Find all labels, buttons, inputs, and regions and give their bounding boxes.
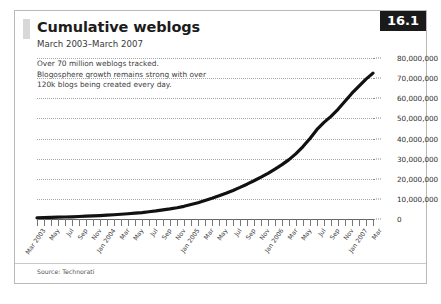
x-tick — [226, 219, 227, 226]
x-tick — [373, 219, 374, 226]
footer-divider — [15, 263, 426, 264]
x-tick — [240, 219, 241, 226]
x-tick — [114, 219, 115, 226]
x-tick — [331, 219, 332, 226]
x-tick — [156, 219, 157, 226]
x-tick — [268, 219, 269, 226]
y-axis-label: 10,000,000 — [397, 194, 438, 203]
x-tick — [219, 219, 220, 226]
y-tick — [373, 158, 381, 159]
y-tick — [373, 198, 381, 199]
y-axis-label: 60,000,000 — [397, 94, 438, 103]
x-tick — [177, 219, 178, 226]
y-tick — [373, 98, 381, 99]
x-tick — [275, 219, 276, 226]
chart-x-axis-labels: Mar 2003MayJulSepNovJan 2004MarMayJulSep… — [37, 227, 377, 273]
chart-series-layer — [37, 58, 373, 219]
x-tick — [247, 219, 248, 226]
x-axis-label: Nov — [174, 227, 187, 241]
x-tick — [184, 219, 185, 226]
y-axis-label: 80,000,000 — [397, 54, 438, 63]
x-axis-label: Mar — [202, 227, 215, 241]
figure-subtitle: March 2003–March 2007 — [37, 39, 143, 49]
y-tick — [373, 58, 381, 59]
figure-number-badge: 16.1 — [380, 11, 426, 31]
chart-plot-area: 010,000,00020,000,00030,000,00040,000,00… — [37, 58, 372, 218]
x-axis-label: Mar 2003 — [24, 227, 47, 256]
x-tick — [261, 219, 262, 226]
x-tick — [359, 219, 360, 226]
x-tick — [345, 219, 346, 226]
x-axis-label: Jul — [65, 227, 75, 237]
x-tick — [142, 219, 143, 226]
x-axis-label: Sep — [244, 227, 257, 241]
x-tick — [128, 219, 129, 226]
series-line-cumulative-weblogs — [37, 73, 373, 218]
y-tick — [373, 78, 381, 79]
x-tick — [310, 219, 311, 226]
x-tick — [352, 219, 353, 226]
x-tick — [191, 219, 192, 226]
x-tick — [212, 219, 213, 226]
y-tick — [373, 118, 381, 119]
y-axis-label: 20,000,000 — [397, 174, 438, 183]
x-axis-label: Jul — [149, 227, 159, 237]
x-axis-label: May — [48, 227, 61, 242]
x-axis-label: Mar — [286, 227, 299, 241]
x-tick — [37, 219, 38, 226]
page-title: Cumulative weblogs — [37, 19, 200, 35]
x-axis-label: Sep — [76, 227, 89, 241]
x-tick — [44, 219, 45, 226]
x-axis-label: Jul — [317, 227, 327, 237]
x-tick — [317, 219, 318, 226]
x-tick — [51, 219, 52, 226]
x-tick — [65, 219, 66, 226]
y-axis-label: 70,000,000 — [397, 74, 438, 83]
x-tick — [72, 219, 73, 226]
x-axis-label: May — [132, 227, 145, 242]
x-tick — [282, 219, 283, 226]
x-tick — [254, 219, 255, 226]
x-axis-label: Nov — [258, 227, 271, 241]
x-tick — [163, 219, 164, 226]
source-note: Source: Technorati — [37, 268, 94, 275]
x-tick — [338, 219, 339, 226]
x-tick — [135, 219, 136, 226]
x-tick — [289, 219, 290, 226]
x-axis-label: Nov — [90, 227, 103, 241]
y-tick — [373, 219, 381, 220]
x-tick — [86, 219, 87, 226]
x-tick — [79, 219, 80, 226]
x-tick — [100, 219, 101, 226]
x-tick — [93, 219, 94, 226]
x-axis-label: Mar — [118, 227, 131, 241]
title-accent-bar — [23, 19, 30, 39]
x-tick — [149, 219, 150, 226]
x-axis-label: Sep — [328, 227, 341, 241]
x-tick — [303, 219, 304, 226]
y-axis-label: 40,000,000 — [397, 134, 438, 143]
x-tick — [324, 219, 325, 226]
x-tick — [233, 219, 234, 226]
y-axis-label: 50,000,000 — [397, 114, 438, 123]
x-tick — [107, 219, 108, 226]
x-axis-label: Mar — [370, 227, 383, 241]
x-axis-label: May — [300, 227, 313, 242]
x-tick — [366, 219, 367, 226]
y-tick — [373, 178, 381, 179]
x-tick — [296, 219, 297, 226]
y-tick — [373, 138, 381, 139]
x-tick — [205, 219, 206, 226]
x-tick — [121, 219, 122, 226]
x-tick — [198, 219, 199, 226]
figure-card: Cumulative weblogs March 2003–March 2007… — [14, 10, 427, 284]
y-axis-label: 30,000,000 — [397, 154, 438, 163]
x-axis-label: Jul — [233, 227, 243, 237]
x-axis-label: Nov — [342, 227, 355, 241]
chart-x-ticks — [37, 219, 373, 226]
x-axis-label: Sep — [160, 227, 173, 241]
x-axis-label: May — [216, 227, 229, 242]
x-tick — [170, 219, 171, 226]
y-axis-label: 0 — [397, 215, 402, 224]
x-tick — [58, 219, 59, 226]
